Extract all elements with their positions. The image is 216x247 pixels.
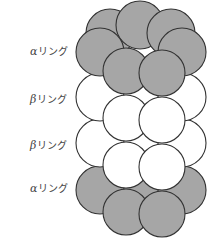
beta-subunit — [139, 97, 185, 143]
alpha-subunit — [139, 50, 185, 96]
alpha-subunit — [139, 191, 185, 237]
beta-subunit — [139, 144, 185, 190]
proteasome-diagram — [0, 0, 216, 247]
